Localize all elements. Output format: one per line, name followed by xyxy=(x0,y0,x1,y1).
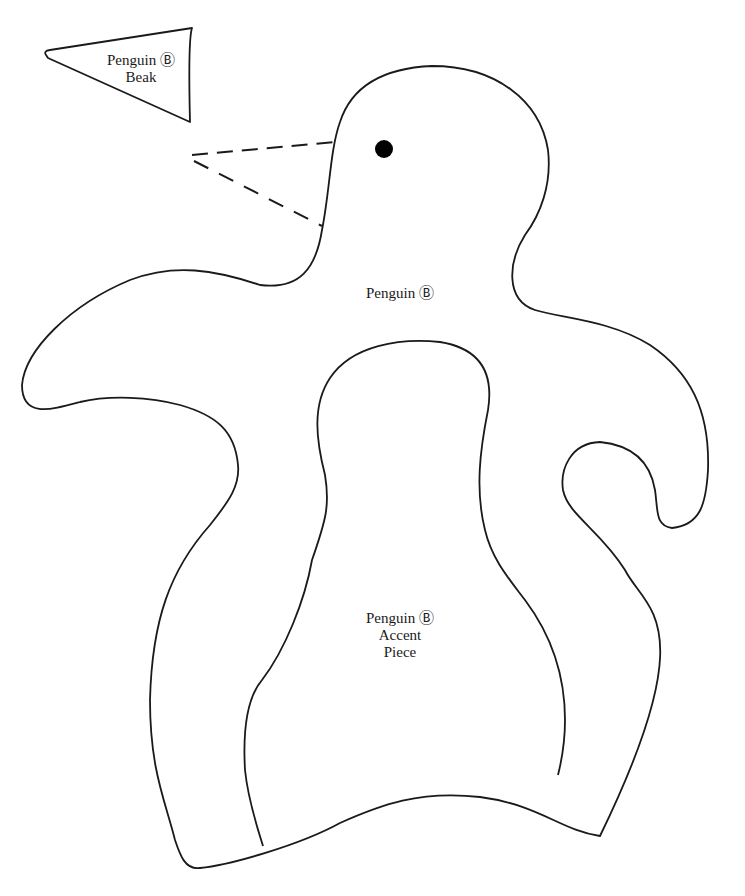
penguin-body-outline xyxy=(22,66,708,868)
beak-placement-line-top xyxy=(192,142,336,155)
accent-label-line3: Piece xyxy=(350,644,450,661)
body-label-text: Penguin Ⓑ xyxy=(355,285,445,302)
accent-label-line1: Penguin Ⓑ xyxy=(350,610,450,627)
beak-label: Penguin Ⓑ Beak xyxy=(96,52,186,86)
accent-piece-outline xyxy=(244,341,565,846)
pattern-page: Penguin Ⓑ Beak Penguin Ⓑ Penguin Ⓑ Accen… xyxy=(0,0,745,896)
body-label: Penguin Ⓑ xyxy=(355,285,445,302)
pattern-outlines xyxy=(0,0,745,896)
beak-placement-line-bottom xyxy=(194,161,322,226)
eye-marker xyxy=(375,140,393,158)
accent-label: Penguin Ⓑ Accent Piece xyxy=(350,610,450,661)
beak-label-line2: Beak xyxy=(96,69,186,86)
accent-label-line2: Accent xyxy=(350,627,450,644)
beak-label-line1: Penguin Ⓑ xyxy=(96,52,186,69)
